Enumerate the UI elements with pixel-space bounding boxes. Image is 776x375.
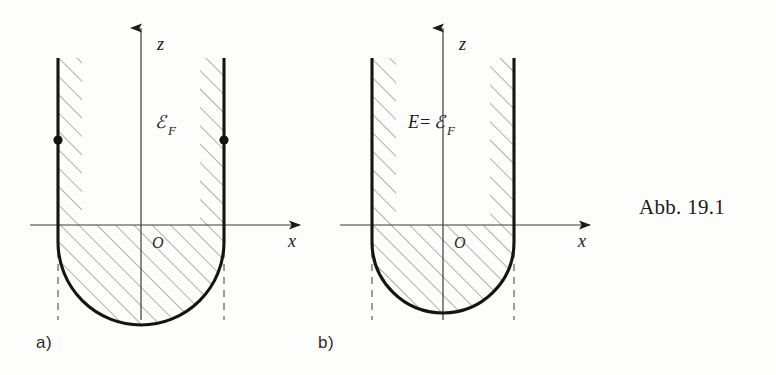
panel-a-origin-label: O [152,234,164,251]
panel-b-hatch-bowl [364,215,564,335]
panel-b-energy-label: E= ℰ F [407,112,456,138]
panel-a-x-axis-label: x [287,231,296,251]
panel-b: z x O E= ℰ F [340,28,680,335]
panel-b-energy-prefix: E= [407,112,431,132]
figure-caption: Abb. 19.1 [639,195,725,220]
panel-a-energy-label: ℰ F [155,112,177,138]
panel-b-hatch-left [364,50,564,250]
panel-b-hatch-right [480,50,680,250]
panel-b-z-axis-label: z [458,34,466,54]
panel-b-energy-subscript: F [446,123,456,138]
panel-b-letter: b) [318,333,334,353]
figure-drawing-canvas: z x O ℰ F z [0,0,776,375]
panel-a-dot-left [53,135,62,144]
panel-a-dot-right [219,135,228,144]
panel-a-energy-subscript: F [167,123,177,138]
panel-a-hatch-right [190,50,390,250]
panel-a: z x O ℰ F [30,28,390,335]
panel-b-energy-symbol: ℰ [434,112,447,132]
panel-b-origin-label: O [454,234,466,251]
panel-a-letter: a) [36,333,52,353]
figure-abb-19-1: z x O ℰ F z [0,0,776,375]
panel-a-z-axis-label: z [156,34,164,54]
panel-a-energy-symbol: ℰ [155,112,168,132]
panel-b-x-axis-label: x [577,231,586,251]
panel-a-hatch-bowl [50,215,250,335]
